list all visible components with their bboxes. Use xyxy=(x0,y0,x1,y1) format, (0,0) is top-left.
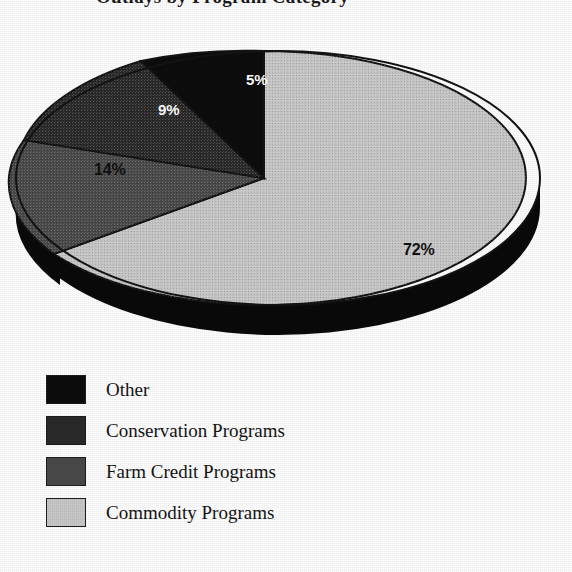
pie-chart: 72% 14% 9% 5% xyxy=(0,14,572,354)
pie-chart-svg xyxy=(0,14,572,354)
legend-item-farm-credit-programs: Farm Credit Programs xyxy=(46,454,466,495)
pie-label-conservation-programs: 9% xyxy=(158,102,179,117)
pie-label-other: 5% xyxy=(246,72,267,87)
legend-swatch-conservation-programs xyxy=(46,416,86,445)
pie-label-farm-credit-programs: 14% xyxy=(94,162,125,178)
legend-item-commodity-programs: Commodity Programs xyxy=(46,495,466,536)
pie-slices xyxy=(9,51,526,305)
legend-swatch-commodity-programs xyxy=(46,498,86,527)
legend-item-conservation-programs: Conservation Programs xyxy=(46,413,466,454)
pie-chart-page: Outlays by Program Category xyxy=(0,0,572,572)
legend-item-other: Other xyxy=(46,372,466,413)
legend-label-conservation-programs: Conservation Programs xyxy=(106,418,285,443)
legend-swatch-other xyxy=(46,375,86,404)
page-title-cropped: Outlays by Program Category xyxy=(0,0,572,14)
legend-swatch-farm-credit-programs xyxy=(46,457,86,486)
legend-label-other: Other xyxy=(106,377,149,402)
legend-label-farm-credit-programs: Farm Credit Programs xyxy=(106,459,276,484)
pie-label-commodity-programs: 72% xyxy=(403,242,434,258)
legend-label-commodity-programs: Commodity Programs xyxy=(106,500,274,525)
page-title: Outlays by Program Category xyxy=(96,0,349,8)
chart-legend: Other Conservation Programs Farm Credit … xyxy=(46,372,466,536)
